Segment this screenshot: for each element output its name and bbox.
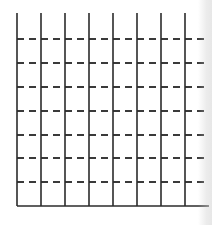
ruled-grid — [0, 0, 212, 225]
